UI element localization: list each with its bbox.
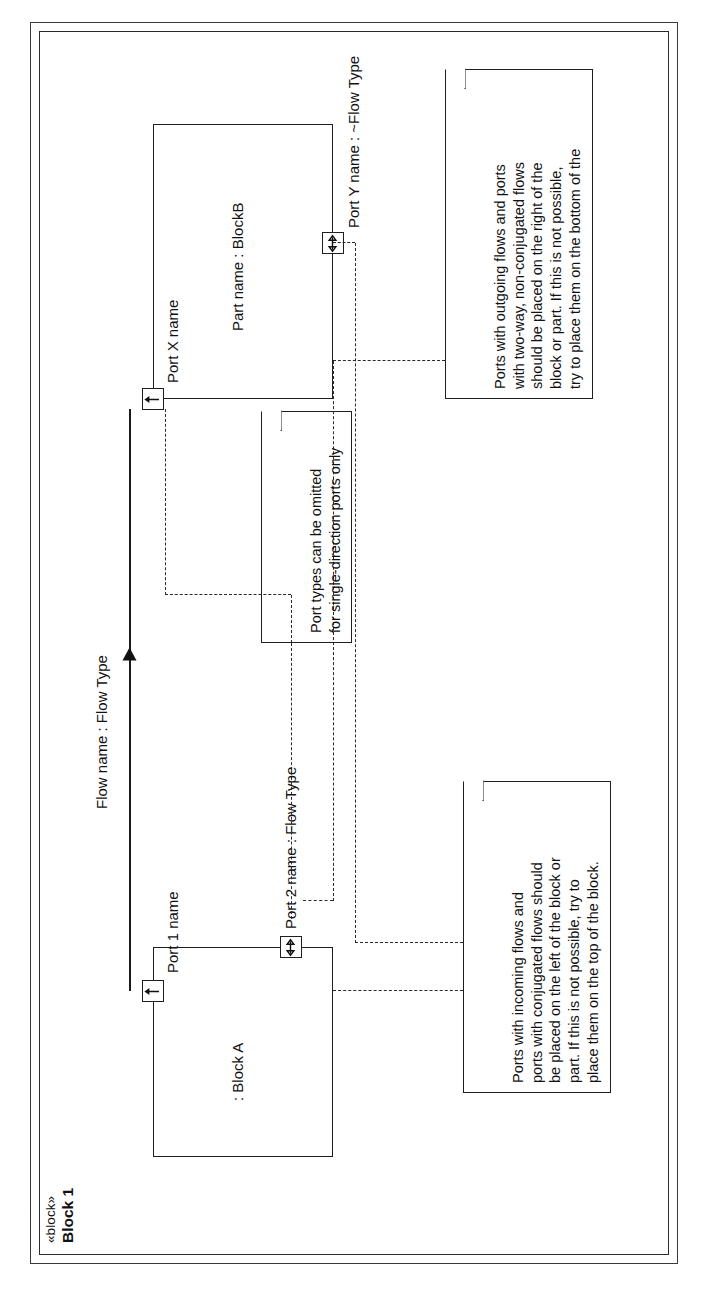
note-fold-corner-icon — [463, 781, 484, 802]
port-2[interactable] — [280, 936, 302, 958]
block1-name: Block 1 — [59, 1188, 77, 1243]
note-outgoing-flows[interactable]: Ports with outgoing flows and ports with… — [445, 69, 593, 399]
arrow-in-port-icon — [143, 390, 162, 409]
page-border: «block» Block 1 : Block A Port 1 name Po… — [30, 22, 678, 1264]
note-incoming-leader-b2 — [355, 243, 356, 943]
port-y-label: Port Y name : ~Flow Type — [345, 56, 362, 228]
note-fold-corner-icon — [445, 69, 466, 90]
port-1[interactable] — [142, 980, 164, 1002]
note-port-types-leader-b1 — [291, 643, 292, 919]
part-block-b-label: Part name : BlockB — [229, 203, 246, 331]
block1-stereotype: «block» — [43, 1188, 59, 1243]
note-outgoing-leader-3 — [303, 900, 333, 901]
note-incoming-leader-a — [333, 990, 463, 991]
port-y[interactable] — [322, 232, 344, 254]
note-port-types-leader-a2 — [165, 594, 291, 595]
note-outgoing-flows-text: Ports with outgoing flows and ports with… — [492, 149, 583, 389]
bidirectional-port-icon — [281, 938, 300, 957]
note-incoming-leader-b3 — [333, 242, 355, 243]
flow-label: Flow name : Flow Type — [93, 655, 110, 809]
note-port-types-text: Port types can be omitted for single-dir… — [308, 448, 343, 633]
note-incoming-flows-text: Ports with incoming flows and ports with… — [510, 857, 601, 1083]
note-outgoing-leader-1 — [333, 360, 445, 361]
flow-connector[interactable] — [129, 409, 131, 991]
port-x-label: Port X name — [164, 300, 181, 383]
note-fold-corner-icon — [261, 411, 282, 432]
note-incoming-leader-b1 — [355, 942, 463, 943]
bidirectional-port-icon — [323, 234, 342, 253]
note-incoming-flows[interactable]: Ports with incoming flows and ports with… — [463, 781, 611, 1093]
diagram-canvas: «block» Block 1 : Block A Port 1 name Po… — [33, 25, 675, 1261]
arrow-out-port-icon — [143, 982, 162, 1001]
note-port-types-leader-a3 — [165, 409, 166, 595]
note-port-types[interactable]: Port types can be omitted for single-dir… — [261, 411, 352, 643]
flow-arrowhead — [123, 648, 137, 661]
part-block-a-label: : Block A — [229, 1043, 246, 1101]
block1-title: «block» Block 1 — [43, 1188, 77, 1243]
note-port-types-leader-a1 — [291, 595, 292, 643]
port-1-label: Port 1 name — [164, 891, 181, 973]
port-x[interactable] — [142, 388, 164, 410]
